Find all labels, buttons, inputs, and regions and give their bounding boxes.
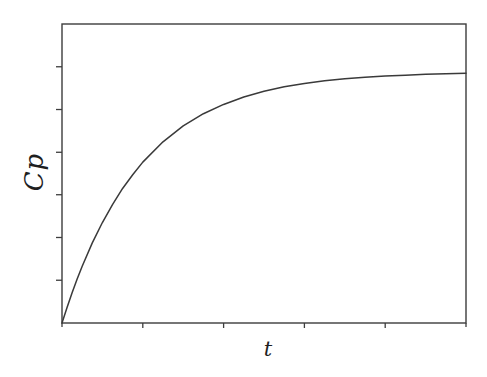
- plot-area: [0, 0, 487, 377]
- x-axis-label: t: [264, 339, 272, 360]
- concentration-curve: [62, 73, 466, 323]
- y-axis-label: Cp: [21, 153, 47, 192]
- plot-border: [62, 24, 466, 323]
- figure-canvas: Cp t: [0, 0, 487, 377]
